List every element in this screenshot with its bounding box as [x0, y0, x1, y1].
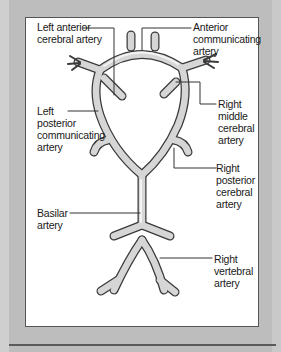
label-right-middle-cerebral-artery: Right middle cerebral artery [218, 98, 254, 146]
label-right-posterior-cerebral-artery: Right posterior cerebral artery [216, 162, 255, 210]
label-anterior-communicating-artery: Anterior communicating artery [193, 21, 261, 57]
label-left-posterior-communicating-artery: Left posterior communicating artery [37, 105, 105, 153]
label-right-vertebral-artery: Right vertebral artery [214, 253, 253, 289]
label-basilar-artery: Basilar artery [37, 207, 68, 231]
label-left-anterior-cerebral-artery: Left anterior cerebral artery [37, 21, 102, 45]
